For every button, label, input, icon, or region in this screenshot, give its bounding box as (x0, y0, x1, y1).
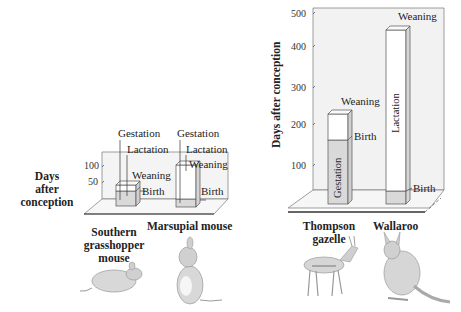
animal-label-line: grasshopper (78, 239, 150, 252)
right-y-axis-label: Days after conception (270, 42, 283, 148)
label-weaning-1: Weaning (132, 169, 171, 181)
grasshopper-mouse-illustration (80, 262, 142, 292)
animal-label-line: mouse (78, 252, 150, 265)
animal-label-line: Thompson (296, 220, 362, 233)
label-gestation-2: Gestation (177, 127, 219, 139)
label-weaning-2: Weaning (189, 158, 228, 170)
right-tick-200: 200 (291, 119, 306, 130)
label-gestation-gazelle: Gestation (332, 158, 343, 198)
label-weaning-gazelle: Weaning (341, 95, 380, 107)
left-tick-50: 50 (88, 176, 98, 187)
label-birth-1: Birth (142, 185, 165, 197)
y-label-line: after (12, 183, 82, 196)
right-tick-100: 100 (291, 160, 306, 171)
label-weaning-wallaroo: Weaning (398, 10, 437, 22)
label-birth-2: Birth (201, 185, 224, 197)
y-label-line: Days (12, 170, 82, 183)
animal-label-marsupial-mouse: Marsupial mouse (147, 220, 232, 233)
right-tick-300: 300 (291, 82, 306, 93)
animal-label-line: gazelle (296, 233, 362, 246)
right-tick-500: 500 (291, 8, 306, 19)
right-tick-400: 400 (291, 41, 306, 52)
animal-label-thompson-gazelle: Thompson gazelle (296, 220, 362, 246)
animal-label-line: Southern (78, 226, 150, 239)
label-lactation-2: Lactation (186, 143, 228, 155)
label-lactation-wallaroo: Lactation (390, 93, 401, 133)
marsupial-mouse-illustration (177, 237, 222, 304)
label-lactation-1: Lactation (127, 143, 169, 155)
wallaroo-illustration (384, 232, 450, 302)
chart-graphics (0, 0, 461, 312)
label-birth-wallaroo: Birth (413, 182, 436, 194)
animal-label-wallaroo: Wallaroo (373, 220, 418, 233)
left-tick-100: 100 (84, 160, 99, 171)
animal-label-southern-grasshopper-mouse: Southern grasshopper mouse (78, 226, 150, 265)
left-y-axis-label: Days after conception (12, 170, 82, 209)
label-gestation-1: Gestation (118, 127, 160, 139)
label-birth-gazelle: Birth (354, 130, 377, 142)
y-label-line: conception (12, 196, 82, 209)
